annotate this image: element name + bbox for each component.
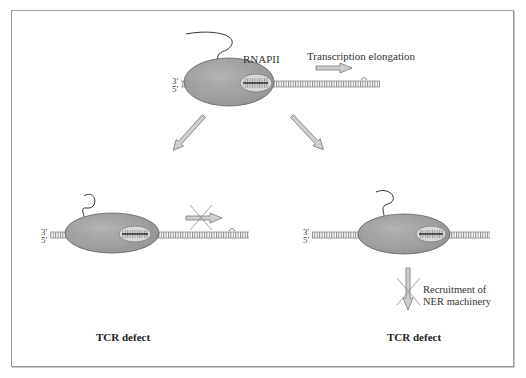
blocked-elongation-arrow <box>186 205 222 230</box>
strand-5prime-label: 5′ <box>172 85 178 94</box>
rna-transcript <box>83 194 95 217</box>
tcr-defect-caption-left: TCR defect <box>96 332 150 343</box>
dna-lesion <box>229 229 235 232</box>
strand-5prime-label: 5′ <box>303 236 309 245</box>
recruitment-label-line2: NER machinery <box>423 297 491 308</box>
strand-5prime-label: 5′ <box>41 236 47 245</box>
top-complex <box>181 32 380 106</box>
elongation-arrow <box>316 63 352 73</box>
rna-transcript <box>186 32 232 60</box>
arrow-to-left <box>170 113 208 154</box>
rnapii-label: RNAPII <box>243 54 280 65</box>
arrow-to-right <box>288 113 327 153</box>
transcription-elongation-label: Transcription elongation <box>307 51 415 62</box>
rna-transcript <box>376 191 393 216</box>
recruitment-label-line1: Recruitment of <box>423 285 486 296</box>
blocked-recruitment-arrow <box>397 268 420 310</box>
dna-lesion <box>361 78 367 81</box>
bottom-left-complex <box>50 194 249 253</box>
tcr-defect-caption-right: TCR defect <box>387 332 441 343</box>
